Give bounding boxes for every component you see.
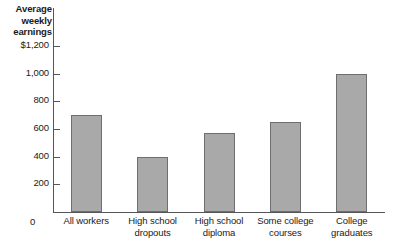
y-tick-label: 600 [33,122,49,133]
x-axis-label-line: Some college [252,215,318,227]
bar-1 [137,157,168,212]
y-tick-label: 800 [33,94,49,105]
x-axis-label-1: High schooldropouts [119,215,185,238]
y-tick-label: $1,200 [21,39,49,50]
bar-0 [71,115,102,212]
bar-2 [204,133,235,212]
x-axis-label-0: All workers [53,215,119,227]
x-axis-label-line: graduates [319,227,385,239]
x-axis-label-line: High school [186,215,252,227]
plot-area: 2004006008001,000$1,200 [53,8,385,213]
bar-chart: Average weekly earnings 2004006008001,00… [0,0,394,245]
x-axis-label-2: High schooldiploma [186,215,252,238]
y-tick-label: 200 [33,177,49,188]
y-axis-title-line-2: weekly [0,15,52,27]
y-axis-zero-label: 0 [30,216,35,227]
x-axis-label-line: College [319,215,385,227]
x-axis-label-line: diploma [186,227,252,239]
y-axis-title-line-3: earnings [0,26,52,38]
y-axis-title-line-1: Average [0,3,52,15]
bar-4 [336,74,367,212]
x-axis-category-labels: All workersHigh schooldropoutsHigh schoo… [53,215,385,245]
bar-3 [270,122,301,212]
x-axis-label-3: Some collegecourses [252,215,318,238]
x-axis-label-line: High school [119,215,185,227]
x-axis-label-line: dropouts [119,227,185,239]
x-axis-label-line: courses [252,227,318,239]
y-axis-title: Average weekly earnings [0,3,52,38]
x-axis-label-4: Collegegraduates [319,215,385,238]
y-tick-label: 1,000 [26,67,49,78]
bars-layer [53,8,385,213]
y-tick-label: 400 [33,150,49,161]
x-axis-label-line: All workers [53,215,119,227]
